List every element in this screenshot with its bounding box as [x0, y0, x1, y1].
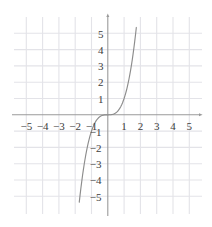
y-axis-arrow-icon	[106, 14, 109, 17]
x-tick-label-2: 2	[131, 121, 149, 132]
y-tick-label-1: 1	[86, 94, 104, 105]
y-tick-label-3: 3	[86, 61, 104, 72]
graph-figure: −5 −4 −3 −2 −1 1 2 3 4 5 5 4 3 2 1 −1 −2…	[0, 0, 212, 227]
x-axis-arrow-icon	[199, 113, 203, 116]
y-tick-label--3: −3	[84, 159, 102, 170]
x-tick-label--2: −2	[66, 121, 84, 132]
y-tick-label--1: −1	[84, 127, 102, 138]
x-tick-label--3: −3	[50, 121, 68, 132]
y-tick-label--5: −5	[84, 192, 102, 203]
x-tick-label--4: −4	[34, 121, 52, 132]
x-tick-label-1: 1	[115, 121, 133, 132]
y-tick-label--2: −2	[84, 143, 102, 154]
cubic-function-plot	[0, 0, 212, 227]
y-tick-label-4: 4	[86, 45, 104, 56]
x-tick-label-4: 4	[164, 121, 182, 132]
y-tick-label--4: −4	[84, 175, 102, 186]
x-tick-label-5: 5	[180, 121, 198, 132]
x-tick-label-3: 3	[148, 121, 166, 132]
y-tick-label-2: 2	[86, 77, 104, 88]
x-tick-label--5: −5	[17, 121, 35, 132]
y-tick-label-5: 5	[86, 29, 104, 40]
